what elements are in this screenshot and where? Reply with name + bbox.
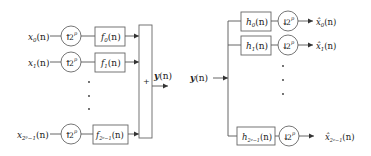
plus-sign: +	[143, 77, 150, 86]
filter-f-last: f2ᵖ−1(n)	[93, 125, 128, 144]
filter-h0: h0(n)	[241, 12, 271, 31]
output-label-y: y(n)	[153, 71, 172, 81]
filter-f1: f1(n)	[95, 53, 125, 72]
analysis-branch-0: h0(n) ↓ 2 p x̂0(n)	[228, 11, 336, 31]
synthesis-bank: x0(n) ↑ 2 p f0(n) x1(n)	[17, 25, 172, 144]
synthesis-branch-0: x0(n) ↑ 2 p f0(n)	[28, 26, 139, 46]
analysis-branch-last: h2ᵖ−1(n) ↓ 2 p x̂2ᵖ−1(n)	[228, 126, 354, 146]
downsampler-1: ↓ 2 p	[278, 35, 298, 55]
ellipsis-dots	[88, 81, 90, 110]
input-label-x-last: x2ᵖ−1(n)	[17, 130, 49, 141]
upsampler-0: ↑ 2 p	[61, 26, 81, 46]
synthesis-branch-1: x1(n) ↑ 2 p f1(n)	[28, 52, 139, 72]
output-label-xhat-last: x̂2ᵖ−1(n)	[325, 132, 354, 143]
upsampler-1: ↑ 2 p	[61, 52, 81, 72]
ellipsis-dots	[282, 65, 284, 95]
synthesis-branch-last: x2ᵖ−1(n) ↑ 2 p f2ᵖ−1(n)	[17, 124, 139, 144]
filter-bank-diagram: x0(n) ↑ 2 p f0(n) x1(n)	[0, 0, 371, 156]
input-label-y: y(n)	[189, 73, 208, 83]
analysis-branch-1: h1(n) ↓ 2 p x̂1(n)	[228, 35, 336, 55]
svg-text:h1(n): h1(n)	[246, 41, 268, 52]
svg-text:f1(n): f1(n)	[100, 58, 121, 69]
downsampler-0: ↓ 2 p	[278, 11, 298, 31]
filter-h1: h1(n)	[241, 36, 271, 55]
summation-block: +	[139, 25, 152, 138]
upsampler-last: ↑ 2 p	[61, 124, 81, 144]
downsampler-last: ↓ 2 p	[279, 126, 299, 146]
input-label-x1: x1(n)	[28, 58, 49, 69]
output-label-xhat0: x̂0(n)	[316, 17, 336, 28]
output-label-xhat1: x̂1(n)	[316, 41, 336, 52]
svg-text:f0(n): f0(n)	[100, 32, 121, 43]
svg-text:h0(n): h0(n)	[246, 17, 268, 28]
filter-h-last: h2ᵖ−1(n)	[237, 127, 275, 145]
filter-f0: f0(n)	[95, 27, 125, 46]
analysis-bank: y(n) h0(n) ↓ 2 p x̂0(n)	[189, 11, 354, 146]
input-label-x0: x0(n)	[28, 32, 49, 43]
